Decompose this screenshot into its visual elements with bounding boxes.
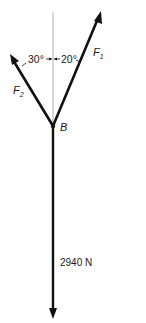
force-f1-label: F1	[93, 46, 104, 60]
point-b-label: B	[60, 121, 67, 133]
weight-label: 2940 N	[60, 257, 92, 268]
point-b-dot	[51, 124, 55, 128]
angle-20-label: 20°	[61, 53, 77, 65]
force-f1-arrow	[53, 11, 102, 126]
angle-30-label: 30°	[28, 53, 44, 65]
force-diagram: 30° 20° F1 F2 B 2940 N	[0, 0, 146, 323]
weight-arrow	[49, 126, 57, 319]
force-f2-label: F2	[13, 84, 24, 98]
